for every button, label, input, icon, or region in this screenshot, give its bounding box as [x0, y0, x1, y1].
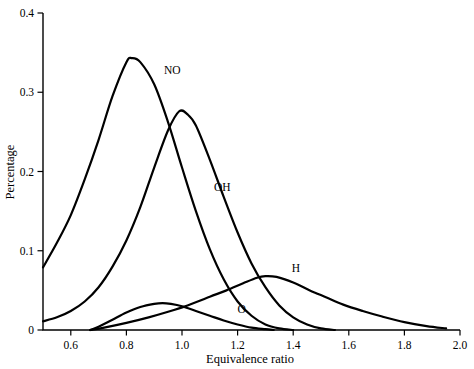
series-label-h: H [292, 262, 300, 274]
series-label-o: O [238, 303, 246, 315]
chart-figure: 0.60.81.01.21.41.61.82.0 00.10.20.30.4 N… [0, 0, 474, 369]
y-tick-label: 0.2 [20, 166, 35, 178]
x-tick-label: 1.4 [286, 339, 301, 351]
y-tick-label: 0.3 [20, 86, 35, 98]
x-tick-label: 1.2 [230, 339, 245, 351]
y-tick-label: 0.1 [20, 245, 35, 257]
y-tick-label: 0 [28, 324, 34, 336]
x-axis-title: Equivalence ratio [206, 352, 294, 366]
x-tick-label: 1.6 [342, 339, 357, 351]
series-label-oh: OH [214, 181, 231, 193]
curve-no [43, 58, 293, 330]
x-tick-label: 1.8 [397, 339, 412, 351]
y-tick-label: 0.4 [20, 7, 35, 19]
line-chart: 0.60.81.01.21.41.61.82.0 00.10.20.30.4 N… [0, 0, 474, 369]
y-axis-ticks: 00.10.20.30.4 [20, 7, 43, 336]
x-axis-ticks: 0.60.81.01.21.41.61.82.0 [64, 330, 468, 351]
data-curves [43, 58, 446, 330]
axis-frame [43, 13, 460, 330]
axis-lines [43, 13, 460, 330]
series-label-no: NO [164, 64, 181, 76]
x-tick-label: 2.0 [453, 339, 468, 351]
curve-oh [43, 110, 335, 330]
x-tick-label: 0.8 [119, 339, 134, 351]
curve-h [90, 276, 446, 330]
x-tick-label: 0.6 [64, 339, 79, 351]
y-axis-title: Percentage [3, 144, 17, 199]
x-tick-label: 1.0 [175, 339, 190, 351]
